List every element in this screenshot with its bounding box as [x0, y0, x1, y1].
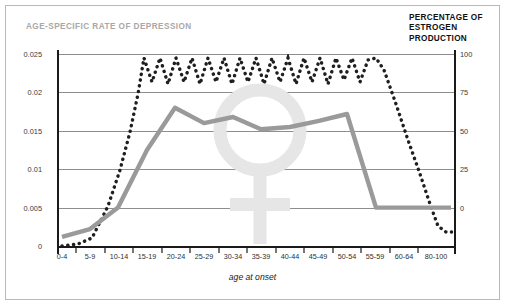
ytick-left-0.015: 0.015: [24, 127, 43, 136]
ytick-left-0.01: 0.01: [28, 165, 42, 174]
right-axis-line: [454, 50, 456, 254]
plot-area: [58, 54, 455, 246]
xtick-label-25-29: 25-29: [195, 252, 213, 261]
ytick-right-100: 100: [460, 50, 472, 59]
xtick-label-30-34: 30-34: [224, 252, 242, 261]
xtick-label-35-39: 35-39: [252, 252, 270, 261]
depression-rate-line: [62, 108, 451, 237]
estrogen-production-line: [62, 58, 454, 246]
xtick-label-40-44: 40-44: [281, 252, 299, 261]
ytick-right-25: 25: [460, 165, 468, 174]
xtick-label-55-59: 55-59: [366, 252, 384, 261]
ytick-left-0: 0: [38, 242, 42, 251]
xtick-label-15-19: 15-19: [138, 252, 156, 261]
xtick-label-50-54: 50-54: [338, 252, 356, 261]
xtick-label-45-49: 45-49: [309, 252, 327, 261]
left-axis-title: AGE-SPECIFIC RATE OF DEPRESSION: [26, 22, 192, 31]
xtick-label-20-24: 20-24: [167, 252, 185, 261]
ytick-left-0.005: 0.005: [24, 204, 43, 213]
ytick-right-75: 75: [460, 88, 468, 97]
xtick-label-10-14: 10-14: [110, 252, 128, 261]
xtick-label-0-4: 0-4: [57, 252, 67, 261]
xtick-label-5-9: 5-9: [85, 252, 95, 261]
x-axis-title: age at onset: [0, 272, 505, 282]
right-axis-title: PERCENTAGE OF ESTROGEN PRODUCTION: [409, 13, 499, 44]
left-axis-line: [57, 50, 59, 254]
xtick-label-60-64: 60-64: [395, 252, 413, 261]
ytick-right-0: 0: [460, 204, 464, 213]
ytick-left-0.02: 0.02: [28, 88, 42, 97]
ytick-left-0.025: 0.025: [24, 50, 43, 59]
ytick-right-50: 50: [460, 127, 468, 136]
series-layer: [58, 54, 455, 246]
chart-figure: AGE-SPECIFIC RATE OF DEPRESSION PERCENTA…: [0, 0, 505, 305]
xtick-label-80-100: 80-100: [425, 252, 447, 261]
